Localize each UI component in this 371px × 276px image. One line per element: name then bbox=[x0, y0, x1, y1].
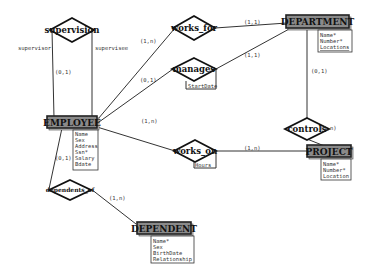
manages-employee-cardinality: (0,1) bbox=[140, 77, 157, 83]
employee-title: EMPLOYEE bbox=[43, 118, 101, 128]
supervisor-role-label: supervisor bbox=[18, 45, 52, 52]
employee-attributes: Name Sex Address Ssn* Salary Bdate bbox=[73, 130, 98, 170]
supervision-cardinality: (0,1) bbox=[55, 69, 72, 75]
project-attr-location: Location bbox=[323, 173, 349, 179]
works-for-label: works_for bbox=[170, 23, 218, 33]
dependents-of-dependent-cardinality: (1,n) bbox=[109, 195, 126, 201]
entity-department[interactable]: DEPARTMENT bbox=[281, 15, 355, 30]
relationship-dependents-of[interactable]: dependents_of bbox=[46, 180, 95, 200]
department-title: DEPARTMENT bbox=[281, 17, 355, 27]
controls-department-cardinality: (0,1) bbox=[311, 68, 328, 74]
works-on-label: works_on bbox=[172, 146, 217, 156]
entity-dependent[interactable]: DEPENDENT bbox=[131, 222, 197, 236]
supervisor-line bbox=[52, 30, 54, 118]
works-on-employee-cardinality: (1,n) bbox=[141, 118, 158, 124]
dependent-attributes: Name* Sex BirthDate Relationship bbox=[151, 236, 194, 263]
entity-project[interactable]: PROJECT bbox=[305, 145, 353, 159]
controls-project-cardinality-label: (1,n) bbox=[320, 125, 337, 131]
works-on-attribute-hours: Hours bbox=[195, 162, 211, 168]
supervisee-role-label: supervisee bbox=[95, 45, 128, 52]
employee-worksfor-line bbox=[98, 28, 175, 119]
manages-department-line bbox=[216, 28, 291, 69]
dependents-of-label: dependents_of bbox=[46, 186, 95, 194]
relationship-manages[interactable]: manages StartDate bbox=[172, 58, 217, 89]
relationship-works-for[interactable]: works_for bbox=[170, 16, 218, 40]
supervision-label: supervision bbox=[45, 25, 100, 35]
employee-attr-bdate: Bdate bbox=[75, 161, 91, 167]
manages-department-cardinality: (1,1) bbox=[244, 52, 261, 58]
department-attributes: Name* Number* Locations bbox=[318, 30, 352, 52]
relationship-supervision[interactable]: supervision bbox=[45, 18, 100, 42]
project-title: PROJECT bbox=[305, 147, 352, 157]
department-attr-locations: Locations bbox=[320, 44, 349, 50]
employee-manages-line bbox=[99, 69, 173, 122]
project-attributes: Name* Number* Location bbox=[321, 159, 351, 180]
entity-employee[interactable]: EMPLOYEE bbox=[43, 116, 101, 130]
er-diagram-canvas: supervision supervisor supervisee (0,1) … bbox=[0, 0, 371, 276]
works-for-employee-cardinality: (1,n) bbox=[140, 38, 157, 44]
dependents-of-employee-cardinality: (0,1) bbox=[55, 155, 72, 161]
manages-label: manages bbox=[173, 64, 216, 74]
works-on-project-cardinality: (1,n) bbox=[244, 145, 261, 151]
dependent-attr-relationship: Relationship bbox=[153, 256, 192, 263]
works-for-department-cardinality: (1,1) bbox=[244, 19, 261, 25]
dependent-title: DEPENDENT bbox=[131, 224, 197, 234]
employee-workson-line bbox=[97, 127, 175, 151]
manages-attribute-startdate: StartDate bbox=[188, 83, 217, 89]
relationship-works-on[interactable]: works_on Hours bbox=[172, 140, 217, 168]
